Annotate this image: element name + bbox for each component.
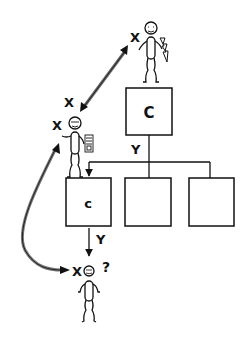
top-person-figure <box>139 22 162 82</box>
child-to-bottom-label: Y <box>95 232 106 247</box>
top-person-label: X <box>130 30 140 45</box>
child-box-3 <box>189 178 234 226</box>
double-arrow <box>80 45 128 112</box>
hierarchy-connectors <box>89 135 210 178</box>
document-icon <box>85 135 93 152</box>
lightning-bolt-icon <box>160 38 168 62</box>
big-box-label: C <box>143 104 154 122</box>
bottom-person-label: X <box>72 264 82 279</box>
diagram-canvas: X X C Y X c <box>0 0 247 339</box>
curved-arrow <box>22 143 70 274</box>
child-box-2 <box>125 178 171 226</box>
middle-person-label: X <box>52 118 62 133</box>
child-box-1-label: c <box>84 196 92 211</box>
arrow-top-label: X <box>64 95 74 110</box>
question-mark: ? <box>102 259 110 275</box>
middle-person-figure <box>62 117 84 177</box>
top-to-children-label: Y <box>130 142 141 157</box>
